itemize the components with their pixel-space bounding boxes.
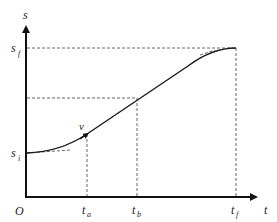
svg-text:b: b: [137, 210, 141, 219]
svg-text:f: f: [236, 210, 240, 219]
y-tick-si: s i: [11, 146, 20, 163]
svg-text:a: a: [87, 210, 91, 219]
svg-text:t: t: [132, 203, 136, 217]
trajectory-diagram: s t O s f s i t a t b t f v: [0, 0, 277, 222]
velocity-label: v: [79, 120, 84, 132]
svg-text:s: s: [11, 146, 16, 160]
svg-text:t: t: [231, 203, 235, 217]
svg-text:t: t: [82, 203, 86, 217]
y-axis-label: s: [23, 8, 28, 22]
x-tick-tb: t b: [132, 203, 141, 219]
guide-lines: [27, 48, 236, 197]
svg-text:i: i: [18, 154, 20, 163]
x-tick-ta: t a: [82, 203, 91, 219]
svg-text:s: s: [11, 41, 16, 55]
trajectory-curve: [27, 48, 236, 153]
x-axis-label: t: [264, 203, 268, 217]
svg-text:f: f: [18, 49, 22, 58]
origin-label: O: [15, 204, 24, 218]
y-tick-sf: s f: [11, 41, 22, 58]
x-tick-tf: t f: [231, 203, 240, 219]
